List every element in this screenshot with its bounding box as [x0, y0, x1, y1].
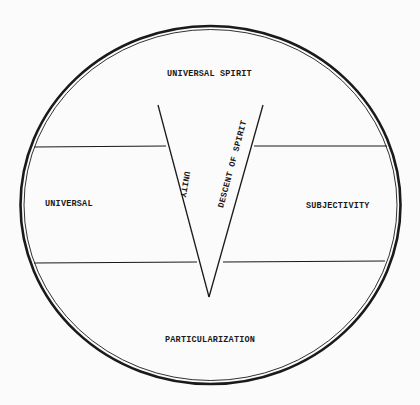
label-particularization: PARTICULARIZATION [165, 336, 255, 345]
label-universal-spirit: UNIVERSAL SPIRIT [167, 70, 252, 79]
upper-divider-left [34, 146, 166, 147]
label-universal: UNIVERSAL [45, 200, 93, 209]
lower-divider-right [223, 261, 385, 262]
label-subjectivity: SUBJECTIVITY [306, 202, 370, 211]
lower-divider-left [34, 262, 197, 263]
v-left-arm [158, 105, 209, 297]
